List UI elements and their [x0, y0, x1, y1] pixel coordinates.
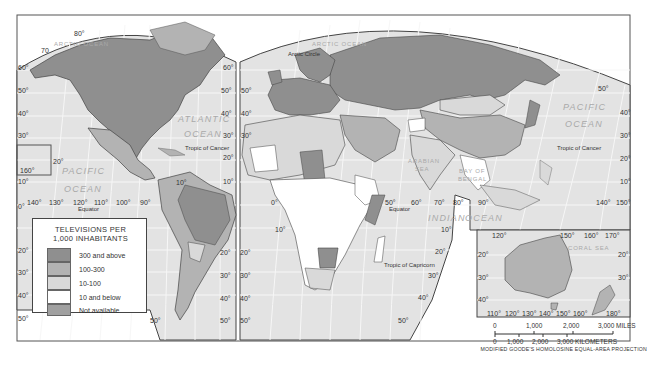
- svg-text:40°: 40°: [18, 110, 29, 117]
- svg-text:30°: 30°: [478, 274, 489, 281]
- svg-text:40°: 40°: [620, 109, 631, 116]
- svg-text:30°: 30°: [223, 132, 234, 139]
- svg-text:150°: 150°: [556, 310, 571, 317]
- svg-text:140°: 140°: [539, 310, 554, 317]
- svg-text:60°: 60°: [223, 64, 234, 71]
- legend-swatch: [47, 304, 71, 316]
- svg-text:60°: 60°: [18, 64, 29, 71]
- scale-label: 1,000: [507, 338, 523, 345]
- svg-text:10°: 10°: [223, 178, 234, 185]
- ocean-label: BENGAL: [458, 176, 487, 182]
- legend: TELEVISIONS PER 1,000 INHABITANTS 300 an…: [32, 218, 147, 313]
- ocean-label: PACIFIC: [563, 102, 606, 112]
- svg-text:0°: 0°: [271, 199, 278, 206]
- svg-text:20°: 20°: [240, 249, 251, 256]
- svg-text:10°: 10°: [18, 178, 29, 185]
- svg-text:40°: 40°: [241, 110, 252, 117]
- svg-text:130°: 130°: [522, 310, 537, 317]
- svg-text:30°: 30°: [241, 132, 252, 139]
- svg-text:180°: 180°: [606, 310, 621, 317]
- legend-title-line2: 1,000 INHABITANTS: [33, 234, 148, 243]
- ocean-label: SEA: [415, 166, 429, 172]
- svg-text:20°: 20°: [220, 249, 231, 256]
- svg-text:30°: 30°: [428, 272, 439, 279]
- scale-label: 2,000: [532, 338, 548, 345]
- svg-text:40°: 40°: [220, 295, 231, 302]
- svg-text:40°: 40°: [221, 110, 232, 117]
- ocean-label: BAY OF: [459, 168, 485, 174]
- legend-label: 10 and below: [79, 294, 121, 301]
- svg-text:50°: 50°: [598, 85, 609, 92]
- scale-label: 1,000: [526, 322, 542, 329]
- legend-title: TELEVISIONS PER 1,000 INHABITANTS: [33, 225, 148, 243]
- svg-text:140°: 140°: [596, 199, 611, 206]
- svg-text:110°: 110°: [487, 310, 501, 317]
- svg-text:120°: 120°: [73, 199, 88, 206]
- legend-swatch: [47, 248, 71, 262]
- svg-text:50°: 50°: [220, 317, 231, 324]
- tropic-capricorn-label: Tropic of Capricorn: [384, 262, 435, 268]
- svg-text:140°: 140°: [27, 199, 42, 206]
- projection-note: MODIFIED GOODE'S HOMOLOSINE EQUAL-AREA P…: [437, 346, 647, 352]
- svg-text:20°: 20°: [18, 247, 29, 254]
- ocean-label: OCEAN: [465, 213, 503, 223]
- svg-text:0°: 0°: [18, 203, 25, 210]
- svg-text:50°: 50°: [398, 317, 409, 324]
- svg-text:70°: 70°: [434, 199, 445, 206]
- svg-text:80°: 80°: [453, 199, 464, 206]
- legend-item-100-300: 100-300: [47, 262, 105, 276]
- svg-text:120°: 120°: [505, 310, 520, 317]
- scale-kilometers: 0 1,000 2,000 3,000 KILOMETERS: [480, 338, 650, 346]
- svg-text:10°: 10°: [275, 226, 286, 233]
- svg-text:20°: 20°: [478, 251, 489, 258]
- svg-text:150°: 150°: [616, 199, 631, 206]
- svg-text:50°: 50°: [385, 199, 396, 206]
- australia-inset: [477, 230, 630, 317]
- svg-text:170°: 170°: [605, 232, 620, 239]
- ocean-label: ARCTIC OCEAN: [54, 41, 109, 47]
- svg-text:80°: 80°: [74, 30, 85, 37]
- legend-label: 10-100: [79, 280, 101, 287]
- svg-text:160°: 160°: [573, 310, 588, 317]
- legend-item-300-above: 300 and above: [47, 248, 125, 262]
- ocean-label: PACIFIC: [62, 166, 105, 176]
- scale-bar: 0 1,000 2,000 3,000 MILES 0 1,000 2,000 …: [480, 322, 650, 346]
- svg-text:50°: 50°: [241, 87, 252, 94]
- svg-text:20°: 20°: [53, 158, 64, 165]
- scale-label: 2,000: [563, 322, 579, 329]
- ocean-label: ARCTIC OCEAN: [312, 41, 367, 47]
- svg-text:160°: 160°: [584, 232, 599, 239]
- svg-text:20°: 20°: [618, 251, 629, 258]
- svg-text:10°: 10°: [620, 178, 631, 185]
- legend-swatch: [47, 290, 71, 304]
- tropic-cancer-label: Tropic of Cancer: [185, 145, 229, 151]
- scale-line: [480, 330, 650, 338]
- legend-item-10-100: 10-100: [47, 276, 101, 290]
- svg-text:10°: 10°: [176, 179, 187, 186]
- scale-miles: 0 1,000 2,000 3,000 MILES: [480, 322, 650, 330]
- svg-text:30°: 30°: [220, 272, 231, 279]
- svg-text:150°: 150°: [560, 232, 575, 239]
- svg-text:60°: 60°: [411, 199, 422, 206]
- svg-text:40°: 40°: [418, 294, 429, 301]
- ocean-label: OCEAN: [565, 119, 603, 129]
- scale-label: 0: [493, 338, 497, 345]
- svg-text:30°: 30°: [18, 132, 29, 139]
- ocean-label: OCEAN: [64, 184, 102, 194]
- svg-text:40°: 40°: [478, 296, 489, 303]
- ocean-label: OCEAN: [184, 129, 222, 139]
- legend-swatch: [47, 276, 71, 290]
- svg-text:50°: 50°: [18, 87, 29, 94]
- svg-text:50°: 50°: [221, 87, 232, 94]
- legend-label: 300 and above: [79, 252, 125, 259]
- legend-item-10-below: 10 and below: [47, 290, 121, 304]
- ocean-label: CORAL SEA: [568, 245, 609, 251]
- equator-label: Equator: [389, 206, 410, 212]
- svg-text:110°: 110°: [94, 199, 108, 206]
- legend-swatch: [47, 262, 71, 276]
- svg-text:70: 70: [41, 47, 49, 54]
- tropic-cancer-label: Tropic of Cancer: [557, 145, 601, 151]
- svg-text:20°: 20°: [223, 154, 234, 161]
- svg-text:30°: 30°: [620, 132, 631, 139]
- legend-item-not-available: Not available: [47, 304, 119, 316]
